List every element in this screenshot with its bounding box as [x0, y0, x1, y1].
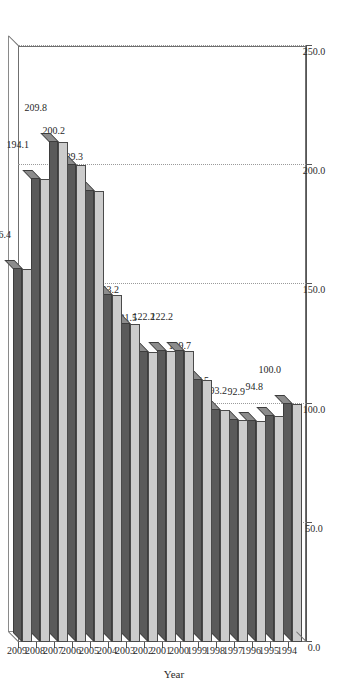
bar-value-label: 94.8 — [245, 381, 263, 392]
bar[interactable] — [184, 351, 194, 642]
value-tick-label: 0.0 — [308, 642, 321, 653]
bar-top-face — [13, 260, 22, 642]
value-tick-label: 250.0 — [303, 46, 326, 57]
value-tick-label: 200.0 — [303, 165, 326, 176]
bar[interactable] — [292, 404, 302, 642]
bar[interactable] — [22, 269, 32, 642]
axis-title-year: Year — [164, 668, 184, 680]
bar[interactable] — [112, 295, 122, 642]
bar[interactable] — [148, 352, 158, 642]
gridline — [18, 45, 306, 46]
chart-canvas: 0.050.0100.0150.0200.0250.0 199419951996… — [0, 0, 354, 690]
bar-value-label: 209.8 — [24, 102, 47, 113]
bar[interactable] — [76, 165, 86, 642]
bar-value-label: 100.0 — [258, 364, 281, 375]
bar[interactable] — [166, 351, 176, 642]
value-axis-line — [306, 45, 307, 642]
value-tick-label: 50.0 — [305, 523, 323, 534]
bar[interactable] — [130, 324, 140, 642]
bar[interactable] — [238, 420, 248, 642]
bar[interactable] — [274, 416, 284, 642]
bar[interactable] — [202, 380, 212, 642]
bar[interactable] — [256, 421, 266, 642]
bar-value-label: 156.4 — [0, 229, 11, 240]
bar[interactable] — [220, 410, 230, 642]
bar[interactable] — [40, 179, 50, 642]
bar[interactable] — [58, 142, 68, 642]
bar[interactable] — [94, 191, 104, 642]
value-tick-label: 150.0 — [303, 284, 326, 295]
value-tick-label: 100.0 — [303, 404, 326, 415]
bar-value-label: 194.1 — [6, 139, 29, 150]
bar-value-label: 92.9 — [227, 386, 245, 397]
category-label: 2009 — [0, 645, 27, 656]
